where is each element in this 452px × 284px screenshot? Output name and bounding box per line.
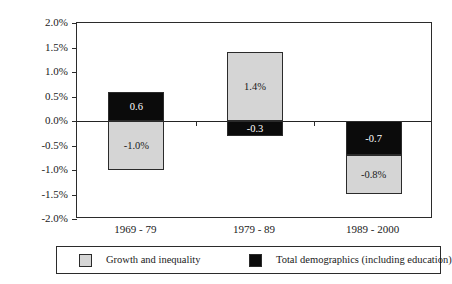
legend-swatch-icon	[249, 254, 262, 267]
bar-segment[interactable]: 0.6	[108, 92, 164, 121]
y-axis-tick-label: 1.5%	[8, 41, 68, 53]
chart-legend: Growth and inequalityTotal demographics …	[56, 246, 441, 274]
y-axis-tick	[72, 97, 77, 98]
category-separator-tick	[314, 121, 315, 126]
x-axis-category-label: 1989 - 2000	[313, 223, 433, 236]
legend-entry[interactable]: Growth and inequality	[79, 247, 200, 273]
y-axis-tick	[72, 72, 77, 73]
y-axis-tick	[72, 219, 77, 220]
plot-inner: 0.6-1.0%1.4%-0.3-0.7-0.8%	[77, 23, 431, 217]
y-axis-tick-label: -1.5%	[8, 188, 68, 200]
y-axis-tick	[72, 23, 77, 24]
legend-entry[interactable]: Total demographics (including education)	[249, 247, 452, 273]
bar-value-label: 0.6	[130, 101, 143, 112]
plot-area: 0.6-1.0%1.4%-0.3-0.7-0.8%	[76, 22, 432, 218]
bar-value-label: -1.0%	[124, 140, 149, 151]
y-axis-tick-label: 0.5%	[8, 90, 68, 102]
y-axis-tick-label: -1.0%	[8, 163, 68, 175]
legend-label: Total demographics (including education)	[276, 254, 452, 266]
y-axis-tick	[72, 170, 77, 171]
bar-value-label: -0.7	[365, 133, 382, 144]
y-axis-tick	[72, 146, 77, 147]
legend-swatch-icon	[79, 254, 92, 267]
bar-value-label: 1.4%	[244, 81, 266, 92]
y-axis-tick-label: 2.0%	[8, 16, 68, 28]
y-axis-tick-label: -2.0%	[8, 212, 68, 224]
x-axis-category-label: 1979 - 89	[194, 223, 314, 236]
y-axis-tick-label: 0.0%	[8, 114, 68, 126]
y-axis-tick-label: -0.5%	[8, 139, 68, 151]
x-axis-category-label: 1969 - 79	[75, 223, 195, 236]
legend-label: Growth and inequality	[106, 254, 200, 266]
y-axis-tick	[72, 48, 77, 49]
y-axis-tick-label: 1.0%	[8, 65, 68, 77]
bar-segment[interactable]: -0.8%	[346, 155, 402, 194]
bar-segment[interactable]: -0.7	[346, 121, 402, 155]
bar-segment[interactable]: 1.4%	[227, 52, 283, 121]
bar-value-label: -0.3	[247, 123, 264, 134]
category-separator-tick	[196, 121, 197, 126]
bar-segment[interactable]: -0.3	[227, 121, 283, 136]
y-axis-tick	[72, 195, 77, 196]
bar-value-label: -0.8%	[361, 169, 386, 180]
bar-segment[interactable]: -1.0%	[108, 121, 164, 170]
